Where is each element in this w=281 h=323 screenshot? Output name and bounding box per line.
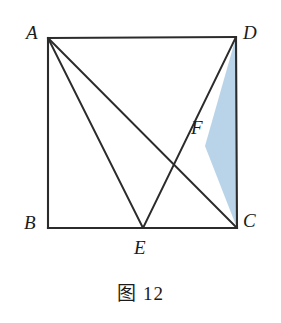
segment-ae	[48, 38, 143, 228]
vertex-label-d: D	[243, 23, 257, 42]
vertex-label-f: F	[191, 118, 203, 137]
segment-dc	[236, 37, 237, 228]
vertex-label-a: A	[26, 23, 38, 42]
geometry-figure: A B C D E F 图 12	[0, 0, 281, 323]
vertex-label-e: E	[134, 238, 146, 257]
vertex-label-c: C	[243, 211, 256, 230]
vertex-label-b: B	[24, 213, 36, 232]
figure-caption: 图 12	[0, 278, 281, 305]
segment-ac	[48, 38, 237, 228]
segment-ad	[48, 37, 236, 38]
geometry-canvas	[0, 0, 281, 323]
